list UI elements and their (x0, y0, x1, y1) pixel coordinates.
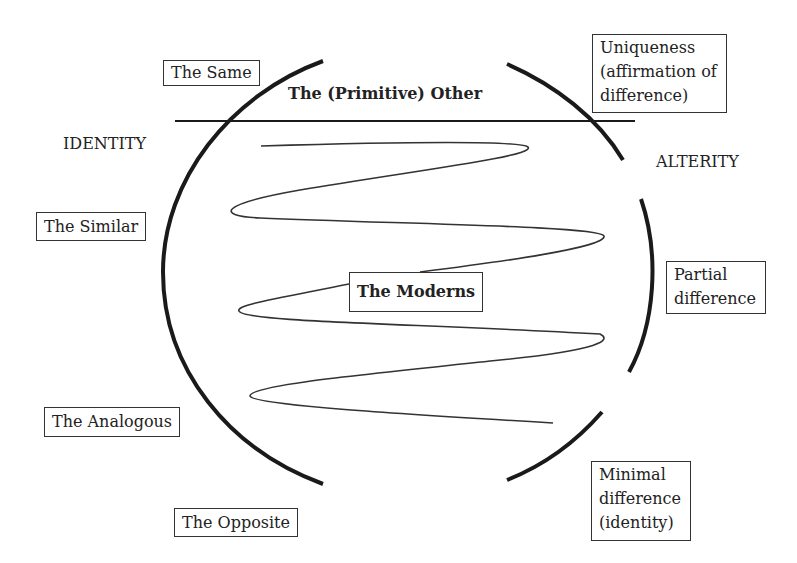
partial-line-2: difference (674, 287, 758, 311)
box-the-opposite: The Opposite (174, 508, 298, 537)
box-the-analogous: The Analogous (44, 407, 180, 437)
uniqueness-line-2: (affirmation of (600, 60, 719, 84)
left-arc (163, 61, 323, 484)
box-partial-difference: Partial difference (666, 261, 766, 314)
minimal-line-3: (identity) (599, 511, 683, 535)
box-uniqueness: Uniqueness (affirmation of difference) (592, 34, 727, 113)
alterity-axis-label: ALTERITY (656, 152, 739, 171)
partial-line-1: Partial (674, 263, 758, 287)
box-the-moderns: The Moderns (349, 272, 483, 312)
identity-axis-label: IDENTITY (63, 134, 146, 153)
box-minimal-difference: Minimal difference (identity) (591, 461, 691, 541)
box-the-similar: The Similar (36, 212, 146, 241)
uniqueness-line-1: Uniqueness (600, 36, 719, 60)
uniqueness-line-3: difference) (600, 84, 719, 108)
minimal-line-1: Minimal (599, 463, 683, 487)
box-the-same: The Same (163, 60, 260, 86)
right-bottom-arc (507, 412, 602, 480)
right-middle-arc (629, 199, 652, 372)
primitive-other-label: The (Primitive) Other (288, 84, 482, 103)
minimal-line-2: difference (599, 487, 683, 511)
